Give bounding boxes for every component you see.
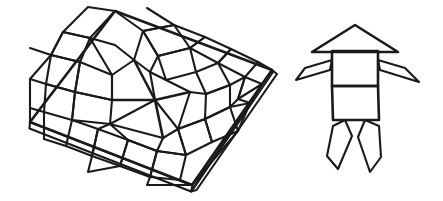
tile-board [30, 7, 278, 192]
rocket-right-leg [358, 120, 381, 172]
tile-row-tl-c [30, 32, 63, 55]
rocket-figure [296, 25, 419, 172]
rocket-left-arm [296, 60, 332, 80]
board-top-surface [30, 11, 272, 185]
line-drawing-svg [0, 0, 443, 201]
tile-row-tl-f [30, 79, 46, 84]
rocket-upper-body [332, 51, 378, 86]
rocket-left-leg [327, 120, 352, 169]
rocket-cap-triangle [312, 25, 398, 52]
illustration-canvas [0, 0, 443, 201]
rocket-right-arm [378, 60, 419, 82]
rocket-lower-body [332, 86, 379, 120]
